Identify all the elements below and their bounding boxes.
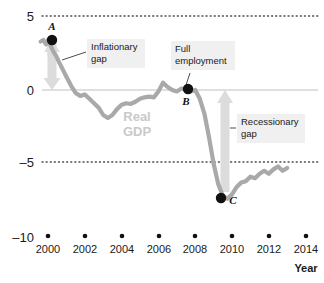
x-tick-dot-2010 — [230, 234, 235, 239]
x-axis-title: Year — [294, 262, 318, 274]
marker-point-c — [216, 193, 226, 203]
leader-line-fullemployment — [186, 73, 190, 85]
x-tick-dot-2008 — [193, 234, 198, 239]
gdp-output-gap-chart: 5 0 –5 –10 Real GDP — [0, 0, 324, 283]
x-tick-dot-2006 — [157, 234, 162, 239]
x-tick-label-2008: 2008 — [183, 243, 207, 255]
real-gdp-watermark: Real GDP — [123, 109, 152, 139]
x-tick-label-2004: 2004 — [110, 243, 134, 255]
x-tick-dot-2002 — [83, 234, 88, 239]
x-tick-label-2002: 2002 — [73, 243, 97, 255]
x-axis-ticks: 2000 2002 2004 2006 2008 2010 2012 2014 — [36, 234, 318, 255]
marker-label-a: A — [47, 20, 55, 32]
marker-label-b: B — [181, 95, 189, 107]
x-tick-label-2006: 2006 — [147, 243, 171, 255]
recessionary-gap-arrow — [217, 90, 233, 192]
marker-point-b — [183, 84, 193, 94]
watermark-line-1: Real — [123, 109, 150, 124]
watermark-line-2: GDP — [123, 124, 152, 139]
x-tick-label-2010: 2010 — [220, 243, 244, 255]
x-tick-label-2014: 2014 — [294, 243, 318, 255]
y-axis-tick-labels: 5 0 –5 –10 — [12, 9, 34, 245]
callout-full-employment: Full employment — [171, 41, 235, 70]
y-tick-label-minus5: –5 — [20, 155, 34, 170]
callout-inflationary-gap: Inflationary gap — [87, 39, 145, 68]
callout-recessionary-gap: Recessionary gap — [237, 114, 305, 143]
marker-point-a — [47, 35, 57, 45]
x-tick-dot-2000 — [46, 234, 51, 239]
y-tick-label-0: 0 — [27, 83, 34, 98]
x-tick-label-2012: 2012 — [257, 243, 281, 255]
x-tick-dot-2012 — [267, 234, 272, 239]
x-tick-dot-2014 — [304, 234, 309, 239]
x-tick-label-2000: 2000 — [36, 243, 60, 255]
leader-line-inflationary — [62, 52, 86, 60]
y-tick-label-minus10: –10 — [12, 230, 34, 245]
x-tick-dot-2004 — [120, 234, 125, 239]
marker-label-c: C — [229, 194, 237, 206]
y-tick-label-5: 5 — [27, 9, 34, 24]
